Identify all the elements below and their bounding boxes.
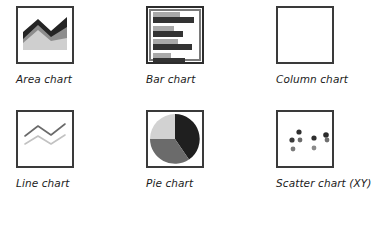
scatter-chart-label: Scatter chart (XY): [276, 177, 375, 190]
line-chart-icon[interactable]: [16, 110, 74, 168]
area-chart-icon-graphic: [18, 8, 72, 62]
gallery-cell-column-chart[interactable]: Column chart: [260, 0, 361, 104]
bar-chart-icon-graphic: [153, 12, 198, 58]
area-chart-icon[interactable]: [16, 6, 74, 64]
line-chart-icon-graphic: [18, 112, 72, 166]
bar-chart-icon[interactable]: [146, 6, 204, 64]
gallery-cell-scatter-chart[interactable]: Scatter chart (XY): [260, 104, 361, 208]
area-chart-label: Area chart: [16, 73, 136, 86]
gallery-cell-pie-chart[interactable]: Pie chart: [130, 104, 260, 208]
bar-chart-row: [153, 39, 198, 51]
pie-chart-icon[interactable]: [146, 110, 204, 168]
scatter-chart-icon[interactable]: [276, 110, 334, 168]
bar-chart-row: [153, 12, 198, 24]
gallery-cell-line-chart[interactable]: Line chart: [0, 104, 130, 208]
gallery-cell-bar-chart[interactable]: Bar chart: [130, 0, 260, 104]
pie-chart-icon-graphic: [150, 114, 200, 164]
column-chart-icon[interactable]: [276, 6, 334, 64]
scatter-chart-icon-graphic: [278, 112, 332, 166]
bar-chart-label: Bar chart: [146, 73, 266, 86]
bar-chart-row: [153, 53, 198, 65]
gallery-cell-area-chart[interactable]: Area chart: [0, 0, 130, 104]
column-chart-label: Column chart: [276, 73, 375, 86]
column-chart-icon-graphic: [283, 13, 328, 56]
pie-chart-label: Pie chart: [146, 177, 266, 190]
bar-chart-row: [153, 26, 198, 38]
line-chart-label: Line chart: [16, 177, 136, 190]
